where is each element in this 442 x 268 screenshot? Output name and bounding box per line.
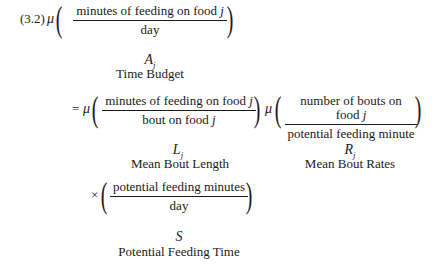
fraction-numerator: minutes of feeding on food j — [102, 94, 256, 111]
equation-number: (3.2) — [20, 11, 45, 27]
label-time-budget: Time Budget — [116, 66, 184, 82]
equals-sign: = — [72, 101, 79, 117]
mu-symbol: μ — [265, 101, 272, 117]
left-paren: ( — [275, 91, 282, 127]
label-potential-feeding-time: Potential Feeding Time — [118, 244, 239, 260]
label-mean-bout-rates: Mean Bout Rates — [305, 156, 395, 172]
fraction-numerator: number of bouts on food j — [285, 94, 417, 125]
right-paren: ) — [246, 177, 253, 213]
right-paren: ) — [415, 91, 422, 127]
left-paren: ( — [92, 91, 99, 127]
mu-symbol: μ — [47, 11, 54, 27]
fraction-denominator: bout on food j — [142, 111, 215, 127]
bout-rate-fraction: number of bouts on food j potential feed… — [285, 94, 417, 141]
times-sign: × — [91, 187, 98, 203]
right-paren: ) — [254, 91, 261, 127]
left-paren: ( — [56, 1, 63, 37]
mu-symbol: μ — [83, 101, 90, 117]
fraction-denominator: potential feeding minute — [287, 125, 414, 141]
bout-length-fraction: minutes of feeding on food j bout on foo… — [102, 94, 256, 127]
symbol-s: S — [176, 229, 183, 245]
fraction-denominator: day — [141, 21, 160, 37]
label-mean-bout-length: Mean Bout Length — [131, 156, 229, 172]
right-paren: ) — [227, 1, 234, 37]
fraction-numerator: potential feeding minutes — [110, 180, 248, 197]
fraction-denominator: day — [170, 197, 189, 213]
left-paren: ( — [101, 177, 108, 213]
fraction-numerator: minutes of feeding on food j — [73, 4, 227, 21]
potential-feeding-fraction: potential feeding minutes day — [110, 180, 248, 213]
time-budget-fraction: minutes of feeding on food j day — [72, 4, 228, 37]
